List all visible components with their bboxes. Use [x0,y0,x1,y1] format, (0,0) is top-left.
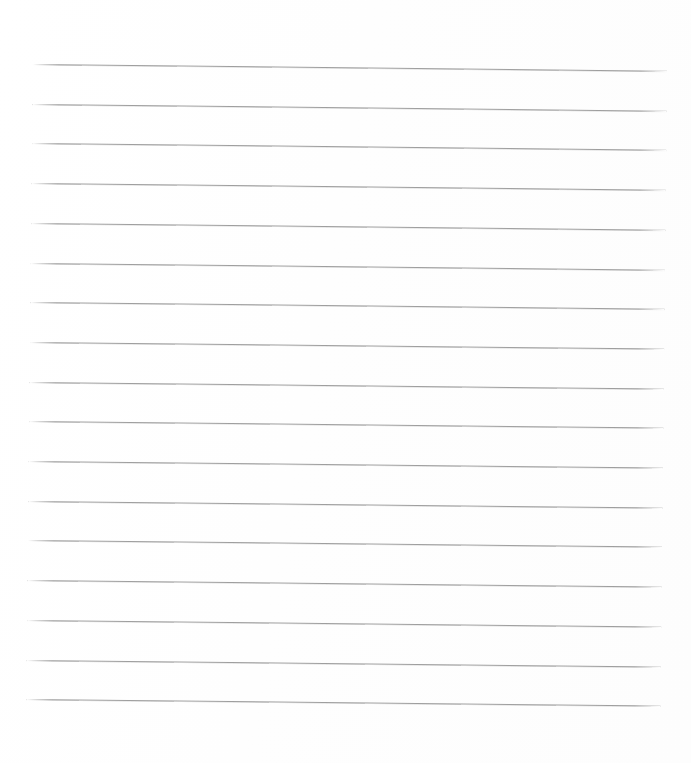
writing-area[interactable] [33,50,667,715]
lined-paper-page [0,0,691,763]
